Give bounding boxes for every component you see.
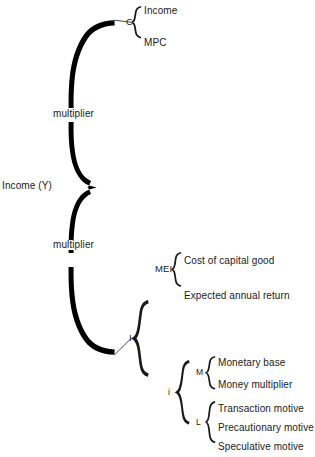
brace-interest-rate xyxy=(174,360,189,425)
main-brace-lower-arm xyxy=(69,267,131,355)
branch-label-multiplier-lower: multiplier xyxy=(51,240,96,250)
leaf-mei-cost-of-capital-good: Cost of capital good xyxy=(184,256,274,266)
brace-money-supply xyxy=(205,356,216,390)
main-brace-vertex xyxy=(75,186,97,190)
branch-label-multiplier-upper: multiplier xyxy=(51,109,96,119)
main-brace-upper-inner-arm xyxy=(69,122,91,186)
node-key-money-demand: L xyxy=(196,418,201,427)
node-key-money-supply: M xyxy=(196,368,203,377)
brace-mei xyxy=(171,252,182,287)
leaf-money-supply-monetary-base: Monetary base xyxy=(218,358,285,368)
leaf-money-demand-precautionary-motive: Precautionary motive xyxy=(218,423,314,433)
node-key-consumption: C xyxy=(126,17,133,27)
node-key-investment: I xyxy=(129,333,132,343)
leaf-money-demand-speculative-motive: Speculative motive xyxy=(218,442,304,452)
leaf-mei-expected-annual-return: Expected annual return xyxy=(184,291,290,301)
brace-money-demand xyxy=(205,401,216,443)
leaf-money-demand-transaction-motive: Transaction motive xyxy=(218,404,304,414)
main-brace-upper-arm xyxy=(69,20,131,108)
brace-investment xyxy=(131,300,149,377)
leaf-consumption-income: Income xyxy=(144,6,177,16)
leaf-consumption-mpc: MPC xyxy=(144,38,167,48)
brace-diagram: Income (Y) multiplier multiplier C I MEI… xyxy=(0,0,315,457)
leaf-money-supply-money-multiplier: Money multiplier xyxy=(218,380,292,390)
node-key-mei: MEI xyxy=(155,264,172,274)
node-key-interest-rate: i xyxy=(168,388,170,397)
root-label-income-y: Income (Y) xyxy=(2,181,52,191)
